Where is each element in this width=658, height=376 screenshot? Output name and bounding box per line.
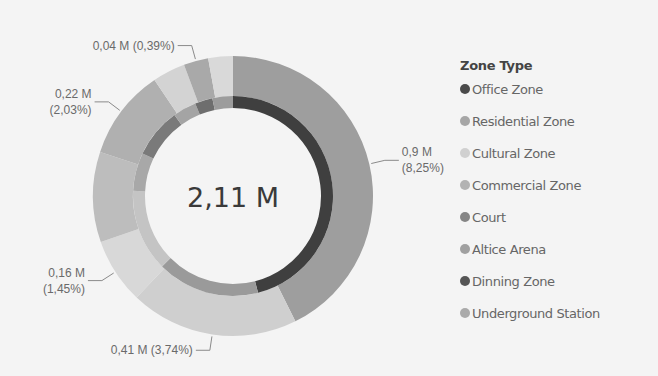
legend: Zone Type Office ZoneResidential ZoneCul… [460, 58, 600, 335]
legend-label: Office Zone [472, 82, 543, 97]
legend-item-0[interactable]: Office Zone [460, 73, 600, 105]
data-label-1: 0,41 M (3,74%) [111, 343, 193, 357]
data-label-0: 0,9 M(8,25%) [402, 145, 444, 175]
legend-item-6[interactable]: Dinning Zone [460, 265, 600, 297]
leader-line-4 [95, 102, 120, 110]
leader-line-1 [196, 336, 212, 350]
leader-line-0 [371, 160, 399, 163]
leader-line-2 [88, 273, 114, 281]
data-label-4: 0,22 M(2,03%) [50, 87, 92, 117]
legend-item-3[interactable]: Commercial Zone [460, 169, 600, 201]
legend-dot-icon [460, 308, 470, 318]
legend-dot-icon [460, 244, 470, 254]
legend-dot-icon [460, 116, 470, 126]
legend-label: Underground Station [472, 306, 600, 321]
legend-label: Dinning Zone [472, 274, 555, 289]
legend-dot-icon [460, 84, 470, 94]
legend-label: Cultural Zone [472, 146, 555, 161]
legend-dot-icon [460, 148, 470, 158]
legend-label: Court [472, 210, 506, 225]
inner-segment-7[interactable] [212, 96, 233, 110]
legend-item-5[interactable]: Altice Arena [460, 233, 600, 265]
legend-title: Zone Type [460, 58, 600, 73]
legend-item-7[interactable]: Underground Station [460, 297, 600, 329]
legend-item-2[interactable]: Cultural Zone [460, 137, 600, 169]
legend-dot-icon [460, 180, 470, 190]
center-total-label: 2,11 M [187, 182, 279, 213]
leader-line-6 [178, 46, 196, 60]
data-label-6: 0,04 M (0,39%) [93, 39, 175, 53]
outer-segment-3[interactable] [93, 152, 139, 242]
legend-label: Altice Arena [472, 242, 546, 257]
data-label-2: 0,16 M(1,45%) [43, 266, 85, 296]
legend-label: Commercial Zone [472, 178, 581, 193]
legend-dot-icon [460, 212, 470, 222]
legend-label: Residential Zone [472, 114, 574, 129]
legend-item-1[interactable]: Residential Zone [460, 105, 600, 137]
legend-dot-icon [460, 276, 470, 286]
legend-item-4[interactable]: Court [460, 201, 600, 233]
